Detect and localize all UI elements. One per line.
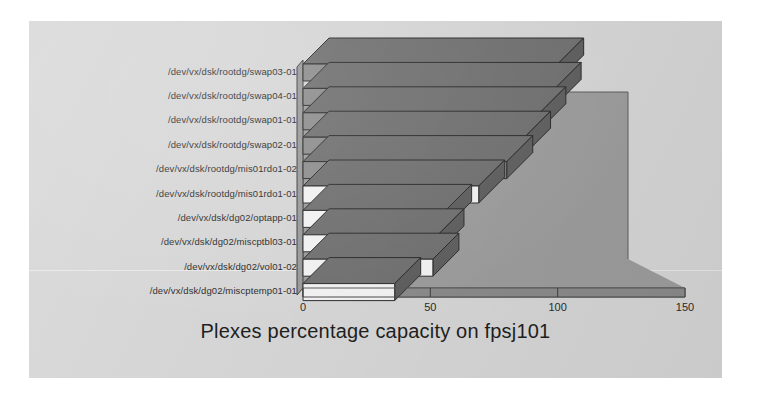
axis-post-side: [297, 60, 303, 295]
category-label: /dev/vx/dsk/rootdg/swap02-01: [168, 140, 297, 150]
category-label: /dev/vx/dsk/rootdg/mis01rdo1-01: [156, 189, 297, 199]
bar-top-face: [303, 136, 533, 162]
category-label: /dev/vx/dsk/rootdg/swap03-01: [168, 67, 297, 77]
bar-top-face: [303, 111, 551, 137]
category-label: /dev/vx/dsk/dg02/miscptemp01-01: [150, 286, 297, 296]
bar-top-face: [303, 184, 472, 210]
category-label: /dev/vx/dsk/rootdg/mis01rdo1-02: [156, 164, 297, 174]
category-label: /dev/vx/dsk/dg02/optapp-01: [178, 213, 297, 223]
plot-area: /dev/vx/dsk/rootdg/swap03-01/dev/vx/dsk/…: [29, 21, 722, 378]
chart-panel: /dev/vx/dsk/rootdg/swap03-01/dev/vx/dsk/…: [29, 21, 722, 378]
x-tick-label: 50: [410, 301, 450, 313]
category-label: /dev/vx/dsk/rootdg/swap01-01: [168, 115, 297, 125]
bar-top-face: [303, 38, 584, 64]
bar-front-face: [303, 284, 395, 301]
chart-title: Plexes percentage capacity on fpsj101: [29, 320, 722, 343]
bar-top-face: [303, 62, 581, 88]
x-tick-label: 100: [538, 301, 578, 313]
bar-top-face: [303, 209, 464, 235]
bar-top-face: [303, 87, 566, 113]
category-label: /dev/vx/dsk/rootdg/swap04-01: [168, 91, 297, 101]
bar-top-face: [303, 233, 459, 259]
category-label: /dev/vx/dsk/dg02/vol01-02: [184, 262, 297, 272]
category-label: /dev/vx/dsk/dg02/miscptbl03-01: [161, 237, 297, 247]
bar-top-face: [303, 160, 505, 186]
x-tick-label: 150: [665, 301, 705, 313]
screenshot-root: /dev/vx/dsk/rootdg/swap03-01/dev/vx/dsk/…: [0, 0, 761, 405]
x-tick-label: 0: [283, 301, 323, 313]
